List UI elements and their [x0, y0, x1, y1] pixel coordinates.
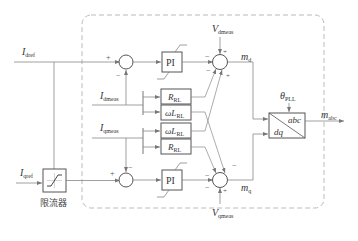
svg-text:abc: abc [288, 115, 301, 125]
sum-junction-d [119, 55, 133, 69]
svg-text:dq: dq [274, 127, 284, 137]
gain-block-wl-d: ωLRL [161, 105, 191, 120]
svg-text:−: − [205, 52, 210, 61]
svg-text:+: + [223, 48, 227, 56]
svg-text:−: − [205, 183, 210, 192]
svg-text:−: − [232, 161, 237, 170]
mq-label: mq [241, 182, 251, 194]
iqmeas-label: Iqmeas [99, 122, 119, 134]
svg-text:−: − [128, 163, 133, 172]
iqref-label: Iqref [19, 167, 33, 179]
gain-block-wl-q: ωLRL [161, 123, 191, 138]
sum-junction-q [119, 173, 133, 187]
current-limiter-block [43, 169, 66, 192]
control-diagram: Idref Iqref 限流器 + − + − Idmeas Iqmeas RR… [0, 0, 358, 241]
gain-block-r-q: RRL [161, 139, 191, 154]
svg-text:+: + [110, 169, 115, 178]
svg-text:−: − [205, 171, 210, 180]
limiter-label: 限流器 [40, 197, 67, 208]
idref-label: Idref [21, 46, 35, 58]
vdmeas-label: Vdmeas [212, 23, 234, 35]
svg-text:+: + [223, 187, 227, 195]
controller-boundary [82, 15, 324, 208]
svg-text:+: + [226, 72, 230, 80]
mabc-label: mabc [321, 109, 337, 121]
theta-pll-label: θPLL [280, 90, 296, 102]
vqmeas-label: Vqmeas [212, 207, 234, 219]
svg-text:−: − [206, 66, 211, 75]
sum-junction-md [213, 55, 228, 70]
gain-block-r-d: RRL [161, 89, 191, 104]
svg-text:−: − [116, 71, 121, 80]
svg-text:PI: PI [166, 57, 175, 68]
svg-text:PI: PI [166, 175, 175, 186]
sum-junction-mq [213, 173, 228, 188]
dq-abc-transform-block: abc dq [269, 113, 305, 138]
idmeas-label: Idmeas [99, 90, 119, 102]
md-label: md [241, 51, 251, 63]
svg-text:+: + [106, 53, 111, 62]
